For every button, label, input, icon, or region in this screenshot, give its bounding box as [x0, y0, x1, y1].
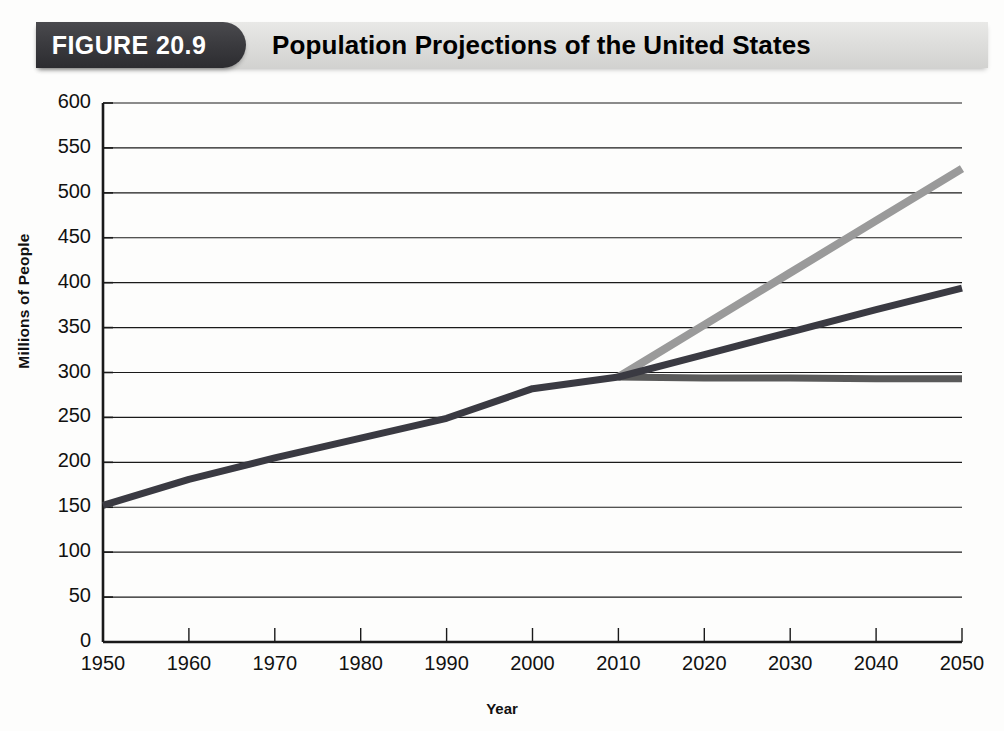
y-axis-tick-label: 50: [21, 584, 91, 607]
x-axis-tick-label: 2000: [488, 652, 578, 675]
y-axis-tick-label: 200: [21, 449, 91, 472]
y-axis-tick-label: 550: [21, 135, 91, 158]
y-axis-tick-label: 150: [21, 494, 91, 517]
series-line: [618, 169, 962, 377]
y-axis-tick-label: 400: [21, 270, 91, 293]
x-axis-tick-label: 1980: [316, 652, 406, 675]
x-axis-tick-label: 1990: [402, 652, 492, 675]
series-line: [103, 288, 962, 505]
x-axis-tick-label: 2020: [659, 652, 749, 675]
y-axis-tick-label: 500: [21, 180, 91, 203]
chart-plot-svg: [0, 0, 1004, 731]
figure-container: FIGURE 20.9 Population Projections of th…: [0, 0, 1004, 731]
x-axis-tick-label: 2010: [573, 652, 663, 675]
x-axis-tick-label: 2030: [745, 652, 835, 675]
x-axis-title: Year: [0, 700, 1004, 717]
x-axis-tick-label: 1970: [230, 652, 320, 675]
y-axis-tick-label: 250: [21, 404, 91, 427]
y-axis-tick-label: 600: [21, 90, 91, 113]
y-axis-tick-label: 450: [21, 225, 91, 248]
x-axis-tick-label: 2040: [831, 652, 921, 675]
y-axis-tick-label: 0: [21, 629, 91, 652]
y-axis-tick-label: 350: [21, 315, 91, 338]
y-axis-tick-label: 300: [21, 360, 91, 383]
x-axis-tick-label: 2050: [917, 652, 1004, 675]
series-line: [618, 377, 962, 379]
x-axis-tick-label: 1960: [144, 652, 234, 675]
y-axis-tick-label: 100: [21, 539, 91, 562]
x-axis-tick-label: 1950: [58, 652, 148, 675]
chart: Millions of People Year 0501001502002503…: [0, 0, 1004, 731]
